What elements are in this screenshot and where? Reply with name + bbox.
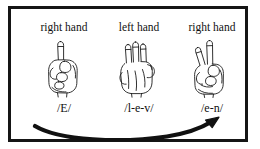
hand-label-1: left hand <box>103 21 175 34</box>
hand-label-0: right hand <box>25 21 103 34</box>
curved-arrow-right-icon <box>29 113 233 141</box>
figure-frame: right hand left hand right hand <box>8 6 248 142</box>
sign-language-sequence-figure: right hand left hand right hand <box>0 0 260 149</box>
hand-two-fingers-v-icon <box>179 35 243 99</box>
hand-index-finger-up-icon <box>33 35 97 99</box>
hand-label-2: right hand <box>174 21 250 34</box>
hand-three-fingers-up-icon <box>107 35 171 99</box>
